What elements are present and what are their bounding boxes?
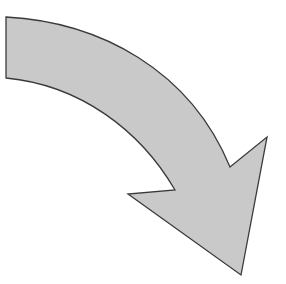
curved-arrow-figure [0,0,286,284]
curved-arrow-icon [6,17,267,275]
